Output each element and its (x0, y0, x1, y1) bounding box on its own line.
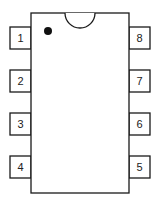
pin-2: 2 (10, 70, 31, 92)
pin-4: 4 (10, 156, 31, 178)
pin-6: 6 (129, 113, 150, 135)
pin-1: 1 (10, 27, 31, 49)
pin-5-label: 5 (136, 161, 142, 173)
pins-right: 8 7 6 5 (129, 27, 150, 178)
ic-body (31, 13, 129, 193)
pin-7: 7 (129, 70, 150, 92)
pin-4-label: 4 (17, 161, 23, 173)
pins-left: 1 2 3 4 (10, 27, 31, 178)
pin-2-label: 2 (17, 75, 23, 87)
pin-7-label: 7 (136, 75, 142, 87)
pin-5: 5 (129, 156, 150, 178)
pin-8-label: 8 (136, 32, 142, 44)
pin-3-label: 3 (17, 118, 23, 130)
pin-3: 3 (10, 113, 31, 135)
pin-1-label: 1 (17, 32, 23, 44)
pin1-marker-dot-icon (44, 27, 52, 35)
ic-pinout-diagram: 1 2 3 4 8 7 6 5 (0, 0, 157, 199)
pin-8: 8 (129, 27, 150, 49)
pin-6-label: 6 (136, 118, 142, 130)
